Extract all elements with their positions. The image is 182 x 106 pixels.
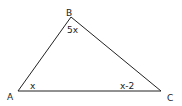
angle-label-a: x (30, 81, 36, 91)
angle-label-b: 5x (67, 25, 79, 35)
angle-labels: x 5x x-2 (30, 25, 134, 91)
vertex-label-a: A (7, 92, 14, 102)
triangle-diagram: A B C x 5x x-2 (0, 0, 182, 106)
edge-ab (18, 17, 71, 91)
edge-bc (71, 17, 161, 91)
angle-label-c: x-2 (120, 81, 134, 91)
vertex-label-b: B (66, 8, 72, 18)
triangle-edges (18, 17, 161, 91)
vertex-label-c: C (167, 93, 173, 103)
